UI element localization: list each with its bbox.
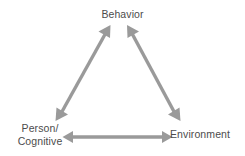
node-label-environment: Environment — [170, 128, 245, 141]
node-label-person-cognitive-line2: Cognitive — [2, 135, 78, 148]
node-label-behavior: Behavior — [0, 8, 245, 21]
node-label-behavior-text: Behavior — [0, 8, 245, 21]
node-label-person-cognitive: Person/ Cognitive — [2, 122, 78, 147]
connector-behavior-person-cognitive — [56, 25, 111, 121]
node-label-person-cognitive-line1: Person/ — [2, 122, 78, 135]
connector-behavior-person-cognitive-shaft — [62, 34, 106, 113]
triadic-reciprocal-determinism-diagram: Behavior Person/ Cognitive Environment — [0, 0, 245, 156]
connector-behavior-environment-shaft — [132, 34, 175, 113]
connector-behavior-environment — [127, 25, 181, 121]
node-label-environment-text: Environment — [170, 128, 245, 141]
connector-person-cognitive-environment — [63, 131, 173, 143]
